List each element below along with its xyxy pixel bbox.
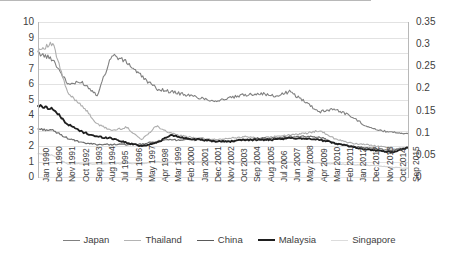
y-tick-right: 0.15 <box>416 106 435 116</box>
series-line-thailand <box>38 42 408 149</box>
x-tick: Dec 2001 <box>214 146 223 182</box>
x-tick: Oct 2014 <box>399 148 408 182</box>
legend-label: Thailand <box>145 235 181 245</box>
legend-item-china[interactable]: China <box>197 235 243 245</box>
x-tick: Jul 1995 <box>121 151 130 182</box>
x-tick: Sep 1993 <box>95 146 104 182</box>
legend-label: Japan <box>84 235 110 245</box>
x-tick: Jul 2006 <box>280 151 289 182</box>
x-tick: Mar 1999 <box>174 147 183 182</box>
legend-item-japan[interactable]: Japan <box>63 235 110 245</box>
legend-item-thailand[interactable]: Thailand <box>124 235 181 245</box>
x-tick: Sep 2004 <box>253 146 262 182</box>
y-tick-right: 0.3 <box>416 39 430 49</box>
line-chart: 109876543210 0.350.30.250.20.150.10.050 … <box>0 0 458 257</box>
legend-item-singapore[interactable]: Singapore <box>331 235 395 245</box>
legend-label: China <box>218 235 243 245</box>
y-tick-left: 6 <box>28 79 34 89</box>
x-tick: Dec 2012 <box>372 146 381 182</box>
y-tick-left: 4 <box>28 110 34 120</box>
y-tick-right: 0.2 <box>416 83 430 93</box>
x-tick: Oct 1992 <box>82 148 91 182</box>
legend-swatch-icon <box>197 240 214 241</box>
x-tick: Apr 1998 <box>161 148 170 182</box>
series-line-japan <box>38 51 408 134</box>
legend-label: Singapore <box>352 235 395 245</box>
x-tick: Mar 2010 <box>333 147 342 182</box>
x-tick: Jan 2012 <box>359 148 368 182</box>
y-tick-left: 8 <box>28 48 34 58</box>
y-tick-right: 0.1 <box>416 128 430 138</box>
x-tick: Sep 2015 <box>412 146 421 182</box>
x-tick: Nov 2013 <box>386 146 395 182</box>
x-tick: Nov 1991 <box>68 146 77 182</box>
y-tick-right: 0.35 <box>416 17 435 27</box>
x-tick: Jan 1990 <box>42 148 51 182</box>
x-tick: Aug 1994 <box>108 146 117 182</box>
legend-label: Malaysia <box>279 235 317 245</box>
legend-item-malaysia[interactable]: Malaysia <box>258 235 317 245</box>
x-tick: May 1997 <box>148 145 157 182</box>
x-tick: Oct 2003 <box>240 148 249 182</box>
x-tick: Jan 2001 <box>201 148 210 182</box>
y-tick-right: 0.25 <box>416 61 435 71</box>
y-tick-left: 7 <box>28 64 34 74</box>
y-tick-left: 0 <box>28 172 34 182</box>
y-axis-left-line <box>38 22 39 178</box>
x-tick: Feb 2011 <box>346 148 355 183</box>
legend-swatch-icon <box>124 240 141 241</box>
y-tick-left: 9 <box>28 33 34 43</box>
x-tick: Aug 2005 <box>267 146 276 182</box>
legend-swatch-icon <box>331 240 348 241</box>
x-tick: Nov 2002 <box>227 146 236 182</box>
y-tick-left: 1 <box>28 157 34 167</box>
chart-legend: JapanThailandChinaMalaysiaSingapore <box>0 231 458 249</box>
y-axis-right-line <box>408 22 409 178</box>
y-tick-left: 10 <box>23 17 34 27</box>
x-tick: Feb 2000 <box>187 147 196 182</box>
x-tick: Jun 1996 <box>135 148 144 182</box>
y-tick-left: 3 <box>28 126 34 136</box>
legend-swatch-icon <box>258 239 275 241</box>
x-tick: May 2008 <box>306 145 315 182</box>
y-tick-left: 5 <box>28 95 34 105</box>
x-tick: Jun 2007 <box>293 148 302 182</box>
x-tick: Apr 2009 <box>320 148 329 182</box>
x-tick: Dec 1990 <box>55 146 64 182</box>
y-tick-left: 2 <box>28 141 34 151</box>
x-axis-line <box>0 0 371 1</box>
legend-swatch-icon <box>63 240 80 241</box>
